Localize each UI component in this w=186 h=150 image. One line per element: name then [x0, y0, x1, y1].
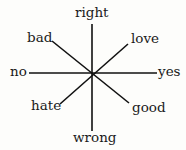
label-yes: yes [158, 65, 181, 79]
label-good: good [132, 101, 166, 115]
axis-bad-good [52, 41, 129, 103]
label-right: right [75, 6, 109, 20]
label-no: no [10, 65, 27, 79]
label-hate: hate [31, 99, 61, 113]
label-bad: bad [27, 31, 52, 45]
label-wrong: wrong [73, 131, 116, 145]
label-love: love [131, 32, 159, 46]
